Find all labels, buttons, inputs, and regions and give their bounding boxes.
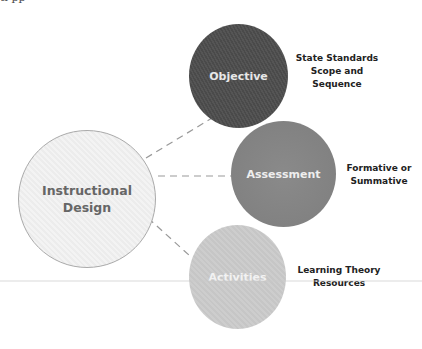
assessment-note-line1: Formative or xyxy=(340,162,418,175)
objective-label: Objective xyxy=(209,70,268,83)
activities-note-line1: Learning Theory xyxy=(289,264,389,277)
objective-note-line2: Scope and xyxy=(287,65,387,78)
assessment-label: Assessment xyxy=(246,168,320,181)
objective-node: Objective xyxy=(189,24,288,128)
activities-note: Learning Theory Resources xyxy=(289,264,389,290)
activities-note-line2: Resources xyxy=(289,277,389,290)
center-label-line2: Design xyxy=(42,199,132,216)
activities-node: Activities xyxy=(189,225,286,329)
assessment-note-line2: Summative xyxy=(340,175,418,188)
objective-note-line3: Sequence xyxy=(287,78,387,91)
instructional-design-node: Instructional Design xyxy=(18,130,156,268)
scan-artifact-band xyxy=(0,280,422,282)
objective-note: State Standards Scope and Sequence xyxy=(287,52,387,91)
connector-objective xyxy=(146,118,212,158)
center-label-line1: Instructional xyxy=(42,182,132,199)
assessment-node: Assessment xyxy=(231,121,336,227)
objective-note-line1: State Standards xyxy=(287,52,387,65)
assessment-note: Formative or Summative xyxy=(340,162,418,188)
connector-activities xyxy=(148,218,190,256)
